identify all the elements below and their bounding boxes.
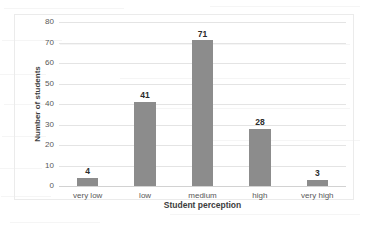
x-tick-label-high: high [252, 192, 267, 200]
y-tick-label-20: 20 [45, 141, 54, 149]
y-tick-label-50: 50 [45, 80, 54, 88]
x-tick-label-medium: medium [188, 192, 216, 200]
bar-value-label-very-high: 3 [315, 169, 320, 178]
bar-slot-very-high: 3 very high [289, 22, 346, 186]
bar-value-label-low: 41 [140, 91, 149, 100]
bar-series: 4 very low 41 low 71 medium 28 [59, 22, 346, 186]
y-tick-label-60: 60 [45, 59, 54, 67]
bar-high[interactable]: 28 [249, 129, 270, 186]
bar-very-low[interactable]: 4 [77, 178, 98, 186]
y-axis-title: Number of students [32, 22, 44, 186]
y-tick-label-0: 0 [50, 182, 54, 190]
bar-medium[interactable]: 71 [192, 40, 213, 186]
bar-value-label-high: 28 [255, 118, 264, 127]
bar-value-label-very-low: 4 [85, 167, 90, 176]
x-tick-label-very-high: very high [301, 192, 333, 200]
bar-low[interactable]: 41 [134, 102, 155, 186]
y-tick-label-30: 30 [45, 121, 54, 129]
bar-value-label-medium: 71 [198, 30, 207, 39]
y-tick-label-10: 10 [45, 162, 54, 170]
x-tick-label-low: low [139, 192, 151, 200]
y-tick-label-80: 80 [45, 18, 54, 26]
chart-figure: Number of students 80 70 60 50 40 30 20 … [14, 14, 354, 200]
bar-very-high[interactable]: 3 [307, 180, 328, 186]
y-tick-label-70: 70 [45, 39, 54, 47]
bar-slot-very-low: 4 very low [59, 22, 116, 186]
x-axis-title: Student perception [59, 201, 346, 210]
bar-slot-low: 41 low [116, 22, 173, 186]
plot-area: 80 70 60 50 40 30 20 10 0 4 [59, 22, 346, 186]
bar-slot-medium: 71 medium [174, 22, 231, 186]
y-axis-title-text: Number of students [34, 66, 42, 142]
bar-slot-high: 28 high [231, 22, 288, 186]
y-tick-label-40: 40 [45, 100, 54, 108]
x-tick-label-very-low: very low [73, 192, 102, 200]
x-axis-line: 0 [59, 186, 346, 187]
